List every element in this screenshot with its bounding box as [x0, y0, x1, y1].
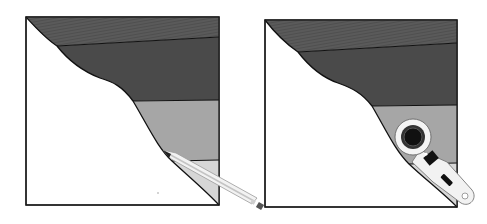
panel-step-2 [265, 20, 474, 207]
quilting-illustration [0, 0, 487, 224]
panel-step-1 [26, 17, 264, 210]
